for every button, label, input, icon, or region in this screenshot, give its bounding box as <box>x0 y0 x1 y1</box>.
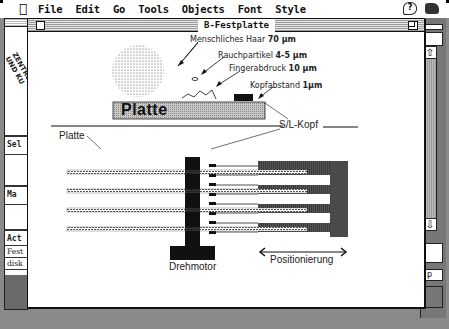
label-fest[interactable]: Fest <box>7 247 23 256</box>
label-disk[interactable]: disk <box>7 259 23 268</box>
label-ma[interactable]: Ma <box>7 190 17 199</box>
divider <box>5 204 28 205</box>
hard-disk-diagram <box>28 33 424 307</box>
panel-box <box>423 243 443 263</box>
label-motor: Drehmotor <box>169 261 216 272</box>
panel-box <box>423 32 443 46</box>
diagram-canvas: Menschliches Haar 70 µm Rauchpartikel 4-… <box>28 33 424 307</box>
zoom-box-icon[interactable] <box>408 21 418 30</box>
screen-corner <box>0 0 3 3</box>
apple-icon[interactable]:  <box>19 1 27 17</box>
divider <box>5 245 28 246</box>
label-platter-big: Platte <box>121 101 168 119</box>
menu-go[interactable]: Go <box>113 3 125 15</box>
logo-text: ZENTRUM F UND KU <box>4 51 28 99</box>
menu-bar:  File Edit Go Tools Objects Font Style … <box>0 0 449 18</box>
menu-objects[interactable]: Objects <box>182 3 225 15</box>
divider <box>5 185 28 187</box>
window-titlebar[interactable] <box>5 19 27 27</box>
window-titlebar[interactable]: B-Festplatte <box>28 19 424 32</box>
window-title: B-Festplatte <box>198 19 275 32</box>
menu-file[interactable]: File <box>38 3 63 15</box>
label-rw-head: S/L-Kopf <box>279 119 318 130</box>
label-hair: Menschliches Haar 70 µm <box>190 35 296 44</box>
panel-fill <box>5 275 28 310</box>
label-act[interactable]: Act <box>7 234 21 243</box>
menu-style[interactable]: Style <box>275 3 306 15</box>
scrollbar-track[interactable] <box>423 58 437 228</box>
help-balloon-icon[interactable]: ? <box>403 2 417 15</box>
divider <box>5 229 28 231</box>
label-sel[interactable]: Sel <box>7 140 21 149</box>
divider <box>5 257 28 258</box>
menu-items: File Edit Go Tools Objects Font Style <box>38 0 319 18</box>
scroll-down-arrow-icon[interactable]: ⇩ <box>423 218 437 231</box>
button-p[interactable]: p <box>423 269 443 281</box>
menu-tools[interactable]: Tools <box>138 3 169 15</box>
main-window: B-Festplatte <box>27 18 425 308</box>
application-icon[interactable] <box>425 3 439 14</box>
label-positioning: Positionierung <box>270 254 333 265</box>
divider <box>5 135 28 137</box>
label-smoke: Rauchpartikel 4-5 µm <box>218 51 307 60</box>
menu-edit[interactable]: Edit <box>76 3 101 15</box>
divider <box>5 154 28 155</box>
hair-particle <box>112 45 164 97</box>
zoom-box[interactable] <box>423 24 443 30</box>
divider <box>5 269 28 270</box>
label-platter-small: Platte <box>59 130 85 141</box>
label-fingerprint: Fingerabdruck 10 µm <box>229 64 317 73</box>
background-window-left[interactable]: ZENTRUM F UND KU Sel Ma Act Fest disk <box>4 18 28 310</box>
close-box-icon[interactable] <box>36 21 45 30</box>
menu-font[interactable]: Font <box>238 3 263 15</box>
grow-box[interactable] <box>423 286 443 308</box>
label-head-gap: Kopfabstand 1µm <box>250 81 322 90</box>
